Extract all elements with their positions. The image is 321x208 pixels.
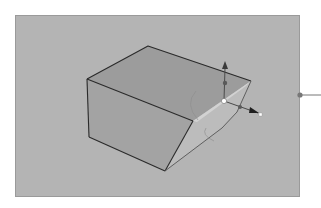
x-axis-midpoint[interactable] [238,105,242,109]
stage: 3D viewport [0,0,321,208]
x-axis-end-handle[interactable] [259,113,262,116]
y-axis-midpoint[interactable] [223,81,227,85]
connector-dot [297,92,302,97]
gizmo-center-handle[interactable] [221,98,226,103]
callout-connector [297,92,321,97]
arrow-up-icon[interactable] [222,61,228,69]
arrow-right-icon[interactable] [249,107,259,113]
scene-canvas [0,0,321,208]
